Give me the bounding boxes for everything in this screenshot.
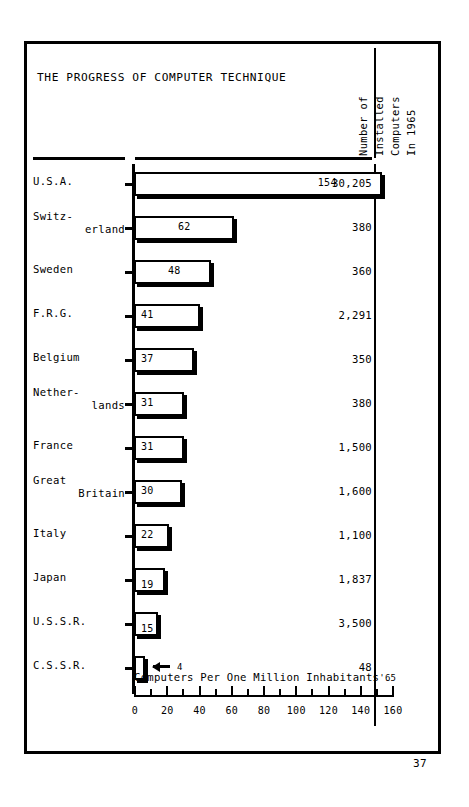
- x-axis-caption: Computers Per One Million Inhabitants'65: [134, 671, 396, 683]
- page-title: THE PROGRESS OF COMPUTER TECHNIQUE: [37, 71, 286, 84]
- category-label: Japan: [33, 571, 125, 584]
- bar-value-label: 62: [178, 221, 191, 232]
- installed-computers-value: 380: [352, 221, 372, 233]
- category-label: F.R.G.: [33, 307, 125, 320]
- installed-computers-value: 2,291: [339, 309, 372, 321]
- category-label-line-1: Great: [33, 474, 125, 487]
- axis-tick-minor: [376, 689, 378, 697]
- right-column-header-line-2: Installed: [373, 96, 385, 156]
- installed-computers-value: 1,100: [339, 529, 372, 541]
- category-label: U.S.A.: [33, 175, 125, 188]
- axis-tick-major: [231, 686, 233, 697]
- bar-value-label: 30: [141, 485, 154, 496]
- installed-computers-value: 30,205: [332, 177, 372, 189]
- category-label: GreatBritain: [33, 474, 125, 500]
- header-rule-left: [33, 157, 125, 160]
- category-label: Belgium: [33, 351, 125, 364]
- page-number: 37: [413, 757, 427, 770]
- axis-tick-label: 20: [161, 705, 174, 716]
- bar-value-label: 19: [141, 579, 154, 590]
- callout-arrow-icon: [153, 665, 170, 668]
- header-rule-right: [135, 157, 372, 160]
- category-label: Nether-lands: [33, 386, 125, 412]
- axis-tick-major: [360, 686, 362, 697]
- category-label: C.S.S.R.: [33, 659, 125, 672]
- category-label-line-1: Switz-: [33, 210, 125, 223]
- installed-computers-value: 1,837: [339, 573, 372, 585]
- axis-tick-label: 40: [193, 705, 206, 716]
- axis-tick-major: [295, 686, 297, 697]
- axis-tick-minor: [279, 689, 281, 697]
- x-axis-caption-text: Computers Per One Million Inhabitants: [134, 671, 379, 683]
- table-row: Belgium37350: [27, 340, 438, 384]
- installed-computers-value: 3,500: [339, 617, 372, 629]
- right-column-header: Number of Installed Computers In 1965: [363, 50, 439, 156]
- axis-tick-label: 160: [384, 705, 403, 716]
- table-row: Nether-lands31380: [27, 384, 438, 428]
- axis-tick-minor: [311, 689, 313, 697]
- axis-tick-label: 100: [287, 705, 306, 716]
- axis-tick-label: 120: [319, 705, 338, 716]
- x-axis-caption-suffix: '65: [379, 673, 396, 683]
- table-row: U.S.S.R.153,500: [27, 604, 438, 648]
- table-row: Japan191,837: [27, 560, 438, 604]
- axis-tick-minor: [247, 689, 249, 697]
- axis-tick-minor: [344, 689, 346, 697]
- plot-area: U.S.A.15430,205Switz-erland62380Sweden48…: [27, 164, 438, 748]
- table-row: Italy221,100: [27, 516, 438, 560]
- table-row: France311,500: [27, 428, 438, 472]
- axis-tick-label: 0: [132, 705, 138, 716]
- table-row: Sweden48360: [27, 252, 438, 296]
- installed-computers-value: 1,600: [339, 485, 372, 497]
- axis-tick-major: [166, 686, 168, 697]
- axis-tick-major: [392, 686, 394, 697]
- installed-computers-value: 1,500: [339, 441, 372, 453]
- category-label: Sweden: [33, 263, 125, 276]
- axis-tick-label: 60: [225, 705, 238, 716]
- bar-value-label: 41: [141, 309, 154, 320]
- axis-tick-major: [328, 686, 330, 697]
- installed-computers-value: 350: [352, 353, 372, 365]
- category-label: Italy: [33, 527, 125, 540]
- installed-computers-value: 380: [352, 397, 372, 409]
- bar-value-label: 31: [141, 441, 154, 452]
- table-row: U.S.A.15430,205: [27, 164, 438, 208]
- category-label: Switz-erland: [33, 210, 125, 236]
- table-row: F.R.G.412,291: [27, 296, 438, 340]
- bar-value-label: 15: [141, 623, 154, 634]
- axis-tick-minor: [215, 689, 217, 697]
- category-label-line-2: lands: [33, 399, 125, 412]
- category-label: U.S.S.R.: [33, 615, 125, 628]
- axis-tick-major: [263, 686, 265, 697]
- axis-tick-major: [199, 686, 201, 697]
- axis-tick-label: 80: [258, 705, 271, 716]
- axis-tick-major: [134, 686, 136, 697]
- bar-value-label: 37: [141, 353, 154, 364]
- installed-computers-value: 360: [352, 265, 372, 277]
- axis-tick-minor: [182, 689, 184, 697]
- table-row: GreatBritain301,600: [27, 472, 438, 516]
- bar-value-label: 48: [168, 265, 181, 276]
- category-label-line-1: Nether-: [33, 386, 125, 399]
- bar-value-label: 31: [141, 397, 154, 408]
- right-column-header-line-4: In 1965: [405, 109, 417, 156]
- category-label-line-2: erland: [33, 223, 125, 236]
- axis-tick-label: 140: [351, 705, 370, 716]
- bar-value-label: 22: [141, 529, 154, 540]
- table-row: Switz-erland62380: [27, 208, 438, 252]
- right-column-header-line-3: Computers: [389, 96, 401, 156]
- chart-page-frame: THE PROGRESS OF COMPUTER TECHNIQUE Numbe…: [24, 41, 441, 754]
- axis-tick-minor: [150, 689, 152, 697]
- value-axis: 020406080100120140160: [112, 695, 438, 743]
- category-label: France: [33, 439, 125, 452]
- right-column-header-line-1: Number of: [357, 96, 369, 156]
- category-label-line-2: Britain: [33, 487, 125, 500]
